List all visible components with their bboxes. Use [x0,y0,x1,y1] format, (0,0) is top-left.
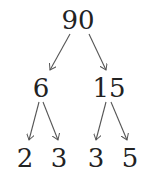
node-level1: 15 [92,75,125,101]
arrow-6-to-2 [29,102,39,140]
arrow-90-to-6 [50,34,70,70]
arrow-90-to-15 [89,34,106,70]
node-leaf: 3 [51,145,68,171]
node-leaf: 3 [88,145,105,171]
arrow-15-to-3 [96,102,106,140]
arrow-15-to-5 [111,102,127,140]
node-level1: 6 [33,75,50,101]
factor-tree: 90 6 15 2 3 3 5 [0,0,147,185]
node-leaf: 2 [17,145,34,171]
node-leaf: 5 [122,145,139,171]
node-root: 90 [61,7,94,33]
arrow-6-to-3 [43,102,58,140]
